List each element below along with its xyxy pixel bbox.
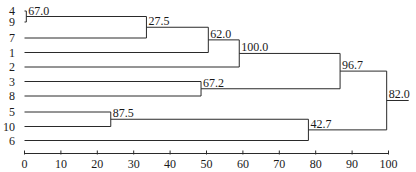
x-axis: 0102030405060708090100 (22, 151, 398, 172)
leaf-label-3: 3 (9, 75, 15, 89)
x-tick-label: 40 (164, 157, 176, 171)
x-tick-label: 80 (310, 157, 322, 171)
x-tick-label: 30 (128, 157, 140, 171)
node-value-label: 67.2 (203, 76, 224, 90)
leaf-label-1: 1 (9, 46, 15, 60)
node-value-label: 100.0 (241, 40, 268, 54)
x-tick-label: 0 (22, 157, 28, 171)
node-value-label: 87.5 (113, 106, 134, 120)
node-value-label: 67.0 (28, 4, 49, 18)
leaf-label-5: 5 (9, 105, 15, 119)
x-tick-label: 20 (91, 157, 103, 171)
x-tick-label: 90 (346, 157, 358, 171)
dendrogram-chart: 49712385106 67.027.562.0100.067.296.787.… (0, 0, 416, 171)
leaf-label-9: 9 (9, 15, 15, 29)
node-value-label: 62.0 (210, 27, 231, 41)
x-tick-label: 10 (55, 157, 67, 171)
leaf-label-10: 10 (3, 120, 15, 134)
x-tick-label: 50 (201, 157, 213, 171)
x-tick-label: 70 (273, 157, 285, 171)
leaf-label-2: 2 (9, 60, 15, 74)
node-value-label: 42.7 (310, 117, 331, 131)
x-tick-label: 60 (237, 157, 249, 171)
leaf-label-6: 6 (9, 134, 15, 148)
leaf-label-8: 8 (9, 89, 15, 103)
x-tick-label: 100 (380, 157, 398, 171)
leaf-labels: 49712385106 (3, 4, 15, 148)
node-value-label: 82.0 (389, 87, 410, 101)
node-value-label: 96.7 (342, 58, 363, 72)
leaf-label-7: 7 (9, 31, 15, 45)
node-value-label: 27.5 (148, 14, 169, 28)
